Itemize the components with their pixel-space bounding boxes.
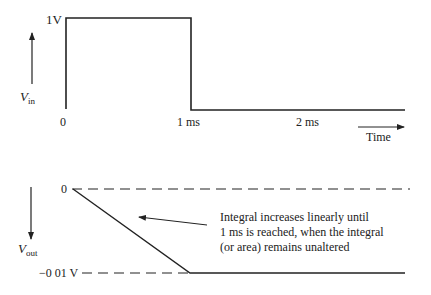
- vin-axis-label: Vin: [20, 89, 35, 106]
- x-tick-1ms: 1 ms: [177, 115, 200, 129]
- input-level-label: 1V: [46, 12, 63, 27]
- x-tick-2ms: 2 ms: [296, 115, 319, 129]
- integrator-waveform-diagram: 1V Vin 0 1 ms 2 ms Time 0 −0 01 V Vout: [0, 0, 431, 295]
- x-tick-0: 0: [60, 115, 66, 129]
- output-zero-label: 0: [61, 182, 67, 196]
- output-waveform-graph: 0 −0 01 V Vout Integral increases linear…: [18, 182, 410, 280]
- annotation-text: Integral increases linearly until 1 ms i…: [220, 210, 387, 254]
- time-axis-label: Time: [366, 130, 391, 144]
- annotation-pointer-arrow-icon: [139, 217, 207, 225]
- input-square-pulse: [66, 18, 405, 110]
- vout-axis-label: Vout: [18, 241, 38, 258]
- output-level-label: −0 01 V: [39, 266, 79, 280]
- input-waveform-graph: 1V Vin 0 1 ms 2 ms Time: [20, 12, 405, 144]
